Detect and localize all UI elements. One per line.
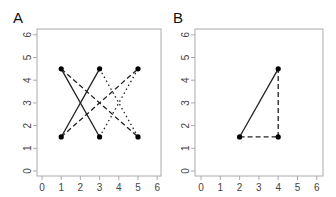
- y-tick-label: 0: [180, 168, 191, 174]
- panel-b-plot: 01234560123456: [180, 29, 323, 193]
- y-tick-label: 1: [180, 145, 191, 151]
- x-tick-label: 2: [78, 182, 84, 193]
- y-tick-label: 4: [180, 77, 191, 83]
- y-tick-label: 0: [22, 168, 33, 174]
- x-tick-label: 2: [237, 182, 243, 193]
- x-tick-label: 5: [135, 182, 141, 193]
- y-tick-label: 2: [22, 122, 33, 128]
- data-point: [237, 134, 242, 139]
- y-tick-label: 6: [180, 32, 191, 38]
- x-tick-label: 3: [256, 182, 262, 193]
- segment-dotted: [100, 69, 138, 137]
- x-tick-label: 0: [39, 182, 45, 193]
- data-point: [59, 134, 64, 139]
- data-point: [276, 134, 281, 139]
- x-tick-label: 4: [116, 182, 122, 193]
- data-point: [135, 66, 140, 71]
- x-tick-label: 1: [218, 182, 224, 193]
- y-tick-label: 6: [22, 32, 33, 38]
- x-tick-label: 4: [275, 182, 281, 193]
- x-tick-label: 0: [198, 182, 204, 193]
- y-tick-label: 1: [22, 145, 33, 151]
- data-point: [97, 134, 102, 139]
- y-tick-label: 5: [180, 54, 191, 60]
- data-point: [59, 66, 64, 71]
- segment-solid: [240, 69, 279, 137]
- segment-dotted: [100, 69, 138, 137]
- x-tick-label: 5: [295, 182, 301, 193]
- y-tick-label: 4: [22, 77, 33, 83]
- y-tick-label: 3: [180, 100, 191, 106]
- y-tick-label: 5: [22, 54, 33, 60]
- panel-b-label: B: [173, 9, 183, 26]
- x-tick-label: 1: [58, 182, 64, 193]
- x-tick-label: 6: [314, 182, 320, 193]
- figure: A B 01234560123456 01234560123456: [0, 0, 336, 197]
- data-point: [97, 66, 102, 71]
- y-tick-label: 2: [180, 122, 191, 128]
- x-tick-label: 3: [97, 182, 103, 193]
- data-point: [276, 66, 281, 71]
- y-tick-label: 3: [22, 100, 33, 106]
- x-tick-label: 6: [154, 182, 160, 193]
- data-point: [135, 134, 140, 139]
- panel-a-plot: 01234560123456: [22, 29, 161, 193]
- panel-a-label: A: [13, 9, 23, 26]
